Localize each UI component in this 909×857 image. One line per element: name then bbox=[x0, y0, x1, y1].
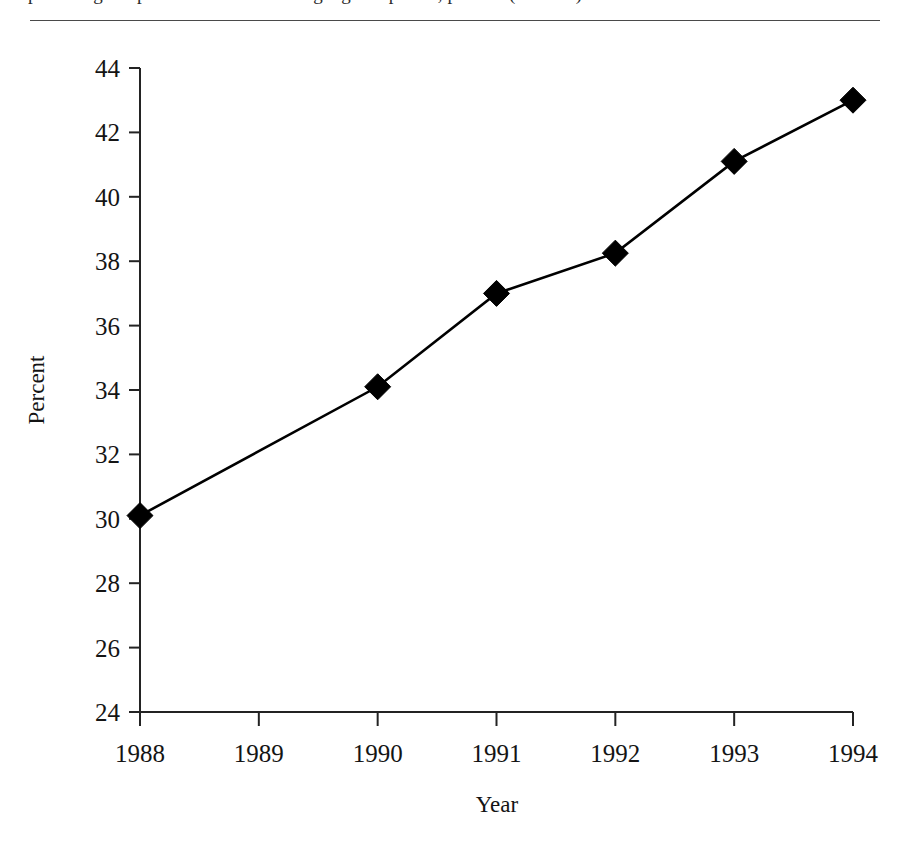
y-tick-label-44: 44 bbox=[95, 55, 121, 82]
x-tick-label-1991: 1991 bbox=[472, 740, 522, 767]
data-marker-1993 bbox=[721, 148, 747, 174]
data-marker-1994 bbox=[840, 87, 866, 113]
chart-svg: 2426283032343638404244 19881989199019911… bbox=[0, 40, 909, 857]
x-tick-label-1988: 1988 bbox=[115, 740, 165, 767]
figure-caption-text: percentage of persons screened during a … bbox=[28, 0, 888, 4]
data-marker-1988 bbox=[127, 503, 153, 529]
y-tick-label-26: 26 bbox=[95, 635, 120, 662]
x-tick-label-1989: 1989 bbox=[234, 740, 284, 767]
x-tick-label-1990: 1990 bbox=[353, 740, 403, 767]
y-tick-label-34: 34 bbox=[95, 377, 121, 404]
line-chart-figure: 2426283032343638404244 19881989199019911… bbox=[0, 40, 909, 857]
x-axis-tick-labels: 1988198919901991199219931994 bbox=[115, 740, 879, 767]
x-tick-label-1994: 1994 bbox=[828, 740, 879, 767]
y-tick-label-28: 28 bbox=[95, 570, 120, 597]
figure-caption-region: percentage of persons screened during a … bbox=[0, 0, 909, 40]
x-axis-ticks bbox=[140, 712, 853, 726]
data-marker-1991 bbox=[484, 280, 510, 306]
y-tick-label-32: 32 bbox=[95, 441, 120, 468]
x-tick-label-1993: 1993 bbox=[709, 740, 759, 767]
y-tick-label-38: 38 bbox=[95, 248, 120, 275]
y-tick-label-42: 42 bbox=[95, 119, 120, 146]
data-marker-1990 bbox=[365, 374, 391, 400]
y-axis-tick-labels: 2426283032343638404244 bbox=[95, 55, 121, 726]
data-marker-1992 bbox=[602, 240, 628, 266]
y-tick-label-30: 30 bbox=[95, 506, 120, 533]
y-axis-ticks bbox=[129, 68, 140, 712]
caption-horizontal-rule bbox=[30, 20, 880, 21]
y-tick-label-40: 40 bbox=[95, 184, 120, 211]
x-axis-title: Year bbox=[476, 792, 519, 817]
y-tick-label-24: 24 bbox=[95, 699, 121, 726]
x-tick-label-1992: 1992 bbox=[590, 740, 640, 767]
y-tick-label-36: 36 bbox=[95, 313, 120, 340]
y-axis-title: Percent bbox=[24, 355, 49, 425]
